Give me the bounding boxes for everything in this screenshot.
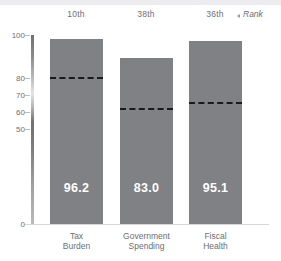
- axis-baseline: [25, 224, 269, 225]
- category-label-tax-burden: Tax Burden: [41, 231, 112, 251]
- axis-gradient-strip: [31, 35, 34, 224]
- ytick-mark-60: [25, 112, 30, 113]
- category-label-government-spending: Government Spending: [108, 231, 185, 251]
- chart-container: 10th 38th 36th Rank 100 80 70 60 50 0 96…: [0, 0, 281, 261]
- ytick-label-80: 80: [3, 74, 25, 83]
- bar-tax-burden[interactable]: 96.2: [50, 39, 103, 224]
- ytick-label-100: 100: [3, 31, 25, 40]
- ytick-mark-80: [25, 78, 30, 79]
- ytick-label-70: 70: [3, 91, 25, 100]
- bar-government-spending[interactable]: 83.0: [120, 58, 173, 224]
- ytick-mark-70: [25, 95, 30, 96]
- reference-line-tax-burden: [50, 77, 103, 79]
- bar-fiscal-health[interactable]: 95.1: [189, 41, 242, 224]
- ytick-mark-50: [25, 129, 30, 130]
- ytick-label-60: 60: [3, 108, 25, 117]
- reference-line-fiscal-health: [189, 102, 242, 104]
- bar-value-fiscal-health: 95.1: [189, 181, 242, 195]
- bar-value-government-spending: 83.0: [120, 181, 173, 195]
- category-label-fiscal-health: Fiscal Health: [180, 231, 251, 251]
- ytick-mark-100: [25, 35, 30, 36]
- ytick-label-0: 0: [3, 220, 25, 229]
- plot-area: 100 80 70 60 50 0 96.2 83.0 95.1 Tax Bur…: [0, 0, 281, 261]
- reference-line-government-spending: [120, 108, 173, 110]
- ytick-label-50: 50: [3, 125, 25, 134]
- bar-value-tax-burden: 96.2: [50, 181, 103, 195]
